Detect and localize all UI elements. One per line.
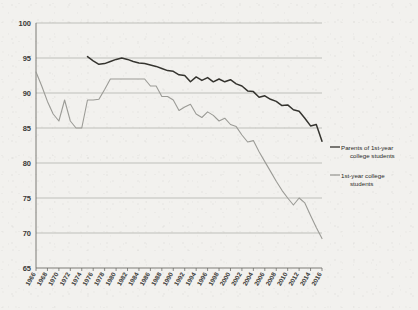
y-tick-label: 90 — [23, 89, 31, 98]
x-axis-tick-labels: 1966196819701972197419761978198019821984… — [24, 268, 323, 287]
chart-legend: Parents of 1st-year college students 1st… — [330, 144, 395, 187]
legend-label-parents-line2: college students — [350, 152, 395, 159]
series-line-parents — [87, 57, 322, 142]
x-tick-label: 2016 — [310, 271, 323, 287]
data-series-group — [36, 57, 322, 239]
legend-label-parents-line1: Parents of 1st-year — [341, 144, 393, 151]
chart-canvas: 100 95 90 85 80 75 70 65 196619681970197… — [0, 0, 418, 310]
y-tick-label: 100 — [18, 19, 31, 28]
legend-label-students-line1: 1st-year college — [341, 172, 385, 179]
y-tick-label: 85 — [23, 124, 31, 133]
line-chart: 100 95 90 85 80 75 70 65 196619681970197… — [0, 0, 418, 310]
y-axis-tick-labels: 100 95 90 85 80 75 70 65 — [18, 19, 31, 273]
y-tick-label: 95 — [23, 54, 31, 63]
series-line-students — [36, 72, 322, 239]
y-tick-label: 70 — [23, 229, 31, 238]
y-tick-label: 75 — [23, 194, 31, 203]
y-tick-label: 80 — [23, 159, 31, 168]
legend-label-students-line2: students — [350, 180, 373, 187]
